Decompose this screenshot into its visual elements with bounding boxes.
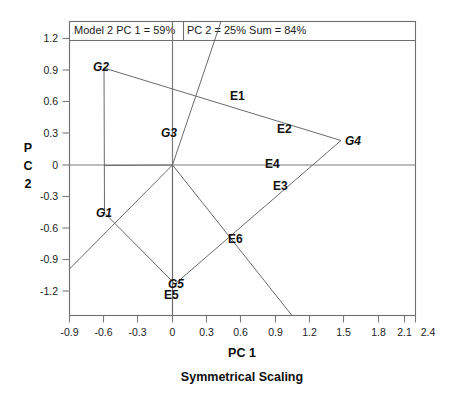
y-axis-ticks — [63, 39, 70, 292]
y-axis-title-line-2: C — [23, 159, 32, 173]
x-tick-label: 2.4 — [421, 326, 436, 338]
x-tick-label: 2.1 — [397, 326, 412, 338]
x-tick-label: -0.3 — [128, 326, 146, 338]
point-label-e3: E3 — [273, 179, 288, 193]
point-label-e5: E5 — [164, 288, 179, 302]
chart-subtitle: Symmetrical Scaling — [181, 370, 303, 384]
vector-origin-g4 — [173, 141, 342, 166]
header-model-pc1: Model 2 PC 1 = 59% — [74, 24, 175, 36]
y-tick-label: 1.2 — [43, 32, 58, 44]
x-axis-ticks — [70, 316, 416, 323]
y-axis-tick-labels: 1.2 0.9 0.6 0.3 0 -0.3 -0.6 -0.9 -1.2 — [40, 32, 58, 297]
hull-edge-g5-g1 — [105, 213, 176, 284]
x-tick-label: 1.8 — [371, 326, 386, 338]
biplot-figure: Model 2 PC 1 = 59% PC 2 = 25% Sum = 84% … — [0, 0, 454, 393]
y-axis-title-line-1: P — [24, 141, 32, 155]
zero-axes — [70, 22, 416, 316]
x-tick-label: 1.2 — [302, 326, 317, 338]
point-label-e6: E6 — [228, 232, 243, 246]
genotype-labels: G2 G3 G4 G1 G5 — [93, 60, 361, 291]
y-axis-title-line-3: 2 — [25, 177, 32, 191]
x-tick-label: 0 — [170, 326, 176, 338]
sector-ray-up-right — [173, 22, 222, 166]
hull-edge-g1-g2 — [104, 68, 105, 213]
point-label-e4: E4 — [265, 157, 280, 171]
polygon-hull — [104, 68, 341, 284]
x-tick-label: 0.9 — [268, 326, 283, 338]
y-tick-label: 0.6 — [43, 95, 58, 107]
y-tick-label: -0.3 — [40, 190, 58, 202]
hull-edge-g2-g4 — [104, 68, 341, 141]
y-tick-label: -1.2 — [40, 285, 58, 297]
y-tick-label: 0.9 — [43, 64, 58, 76]
axis-titles: PC 1 Symmetrical Scaling P C 2 — [23, 141, 303, 384]
point-label-e2: E2 — [277, 122, 292, 136]
y-tick-label: -0.9 — [40, 253, 58, 265]
x-tick-label: -0.9 — [60, 326, 78, 338]
x-tick-label: 1.5 — [336, 326, 351, 338]
header-pc2-sum: PC 2 = 25% Sum = 84% — [187, 24, 306, 36]
sector-ray-down-left — [70, 165, 173, 269]
x-axis-tick-labels: -0.9 -0.6 -0.3 0 0.3 0.6 0.9 1.2 1.5 1.8… — [60, 326, 435, 338]
y-tick-label: -0.6 — [40, 222, 58, 234]
point-label-g4: G4 — [345, 134, 361, 148]
hull-edge-g4-g5 — [175, 141, 341, 285]
plot-frame — [70, 22, 416, 316]
point-label-g3: G3 — [161, 126, 177, 140]
point-label-g1: G1 — [96, 206, 112, 220]
x-tick-label: 0.3 — [199, 326, 214, 338]
x-tick-label: 0.6 — [233, 326, 248, 338]
environment-labels: E1 E2 E3 E4 E5 E6 — [164, 89, 292, 302]
y-tick-label: 0.3 — [43, 127, 58, 139]
plot-canvas: Model 2 PC 1 = 59% PC 2 = 25% Sum = 84% … — [0, 0, 454, 393]
vector-origin-left — [104, 165, 173, 166]
header-annotation: Model 2 PC 1 = 59% PC 2 = 25% Sum = 84% — [70, 22, 416, 41]
point-label-e1: E1 — [230, 89, 245, 103]
point-label-g2: G2 — [93, 60, 109, 74]
y-tick-label: 0 — [52, 159, 58, 171]
biplot-vectors — [104, 141, 341, 166]
x-axis-title: PC 1 — [228, 346, 256, 360]
x-tick-label: -0.6 — [94, 326, 112, 338]
